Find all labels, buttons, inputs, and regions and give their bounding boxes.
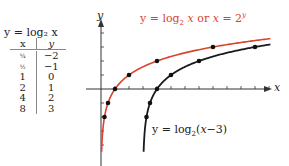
red-curve-point	[211, 45, 216, 50]
black-curve-point	[253, 45, 258, 50]
red-curve-point	[102, 115, 107, 120]
black-curve-point	[155, 87, 160, 92]
red-curve-point	[113, 87, 118, 92]
red-curve-label: y = log2 x or x = 2y	[140, 11, 246, 27]
x-axis-label: x	[274, 81, 280, 94]
black-curve-point	[148, 101, 153, 106]
y-axis-label: y	[97, 9, 103, 22]
black-curve-point	[197, 59, 202, 64]
red-curve-point	[155, 59, 160, 64]
x-axis-arrow-icon	[264, 86, 272, 92]
black-curve-point	[169, 73, 174, 78]
red-curve-point	[127, 73, 132, 78]
black-curve-point	[144, 115, 149, 120]
black-curve-label: y = log2(x−3)	[152, 123, 227, 138]
red-curve-point	[106, 101, 111, 106]
